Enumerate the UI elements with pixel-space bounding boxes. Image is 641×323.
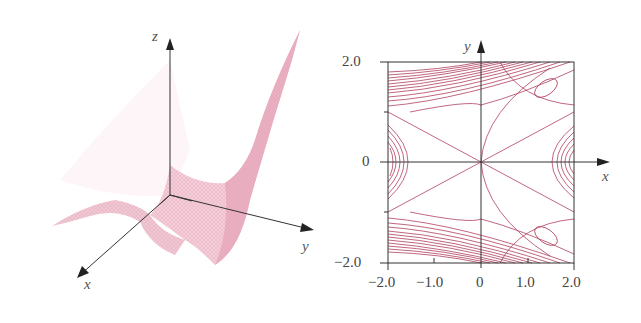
contour-plot-panel: y x 2.0 0 −2.0 −2.0 −1.0 0 1.0 2.0 (320, 0, 641, 323)
y-tick-neg2: −2.0 (334, 254, 361, 271)
z-axis-label: z (152, 28, 158, 45)
surface-plot (0, 0, 320, 323)
x-tick-0: 0 (476, 274, 484, 291)
x-tick-neg1: −1.0 (416, 274, 443, 291)
y-tick-0: 0 (362, 153, 370, 170)
x-tick-neg2: −2.0 (368, 274, 395, 291)
z-axis-arrow-icon (166, 38, 174, 50)
x-tick-2: 2.0 (562, 274, 581, 291)
y-axis-arrow-icon (300, 223, 314, 232)
x-axis-arrow-icon (597, 158, 610, 166)
x-axis-label: x (602, 168, 609, 185)
y-axis-arrow-icon (477, 40, 485, 53)
y-axis-label: y (302, 238, 309, 255)
surface-plot-panel: z y x (0, 0, 320, 323)
x-tick-1: 1.0 (516, 274, 535, 291)
x-axis-label: x (84, 276, 91, 293)
y-axis-label: y (464, 38, 471, 55)
y-tick-2: 2.0 (342, 53, 361, 70)
